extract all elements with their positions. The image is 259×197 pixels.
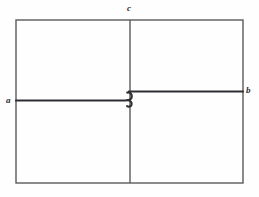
figure-label-b: b (246, 86, 251, 95)
figure-label-a: a (6, 96, 11, 105)
figure-canvas: a b c (0, 0, 259, 197)
line-a-path (16, 92, 132, 100)
figure-drawing (0, 0, 259, 197)
figure-label-c: c (127, 4, 131, 13)
